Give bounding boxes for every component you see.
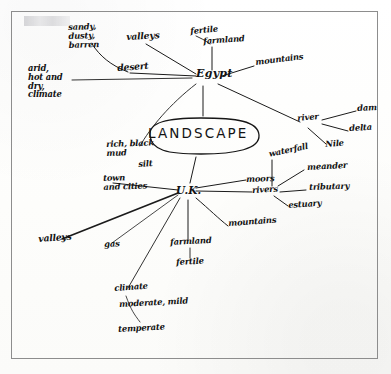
hub-egypt-label: Egypt [196,68,233,80]
branch-nile: Nile [325,139,344,149]
branch-arid-climate: arid, hot and dry, climate [28,64,62,99]
branch-river: river [297,112,319,123]
hub-uk-label: U.K. [176,185,201,196]
branch-moors: moors [246,174,274,184]
branch-gas: gas [104,239,120,249]
branch-rivers: rivers [252,185,278,195]
mindmap-sheet: LANDSCAPE Egypt U.K. valleys desert sand… [0,0,391,374]
branch-farmland-bottom: farmland [170,236,212,247]
branch-valleys-bottom: valleys [38,232,72,244]
branch-tributary: tributary [309,182,349,192]
branch-desert: desert [117,61,149,73]
branch-fertile-bottom: fertile [176,257,204,267]
center-node-label: LANDSCAPE [148,126,248,140]
branch-valleys-top: valleys [126,30,160,41]
branch-rich-black-mud: rich, black mud [106,138,154,157]
branch-dam: dam [357,103,377,113]
branch-silt: silt [138,159,153,169]
branch-meander: meander [307,161,347,172]
branch-town-and-cities: town and cities [103,172,147,191]
branch-sandy-dusty-barren: sandy, dusty, barren [68,22,99,49]
branch-delta: delta [349,123,372,133]
